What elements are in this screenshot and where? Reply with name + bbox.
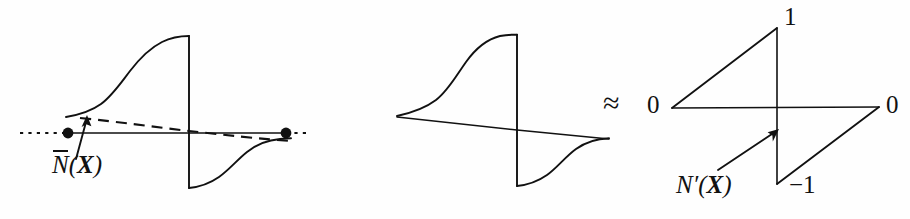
vertex-label-bottom-minus-one: −1 (789, 172, 816, 197)
n-prime-argument: X (706, 171, 723, 198)
n-bar-symbol: N (52, 152, 69, 177)
right-panel (672, 28, 879, 184)
n-bar-argument: X (77, 151, 94, 178)
figure-root: N(X) ≈ 0 1 0 −1 N′(X) (0, 0, 910, 219)
vertex-label-left-zero: 0 (647, 92, 660, 117)
linear-approx-dashed (80, 118, 291, 141)
right-horizontal-axis (672, 107, 879, 108)
exact-derivative-falling-branch (189, 138, 291, 188)
vertex-label-right-zero: 0 (886, 92, 899, 117)
figure-canvas (0, 0, 910, 219)
middle-rising-branch (397, 35, 517, 116)
exact-derivative-rising-branch (66, 36, 189, 117)
label-n-bar-of-x: N(X) (52, 152, 102, 177)
ramp-rising (672, 28, 777, 108)
label-n-prime-of-x: N′(X) (676, 172, 732, 197)
n-bar-paren-open: ( (69, 151, 77, 178)
nbar-leader-arrowhead (82, 115, 92, 127)
middle-falling-branch (517, 138, 609, 186)
n-bar-paren-close: ) (94, 151, 102, 178)
approximately-equal-icon: ≈ (603, 88, 619, 118)
node-dot-right (281, 128, 292, 139)
middle-panel (397, 35, 609, 186)
node-dot-left (63, 128, 74, 139)
n-prime-paren-close: ) (723, 171, 731, 198)
nprime-leader-line (718, 134, 772, 170)
middle-secant-line (397, 117, 609, 139)
vertex-label-top-one: 1 (784, 4, 797, 29)
n-prime-symbol: N′ (676, 171, 698, 198)
